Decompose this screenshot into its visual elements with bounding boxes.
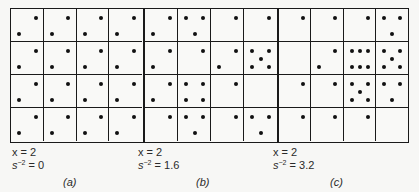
grid-cell bbox=[178, 108, 211, 141]
dot-icon bbox=[168, 82, 172, 86]
dot-icon bbox=[366, 16, 370, 20]
grid-cell bbox=[376, 75, 408, 108]
grid-cell bbox=[311, 108, 343, 141]
dot-icon bbox=[366, 115, 370, 119]
dot-icon bbox=[99, 49, 103, 53]
grid-cell bbox=[376, 42, 408, 75]
dot-icon bbox=[398, 49, 402, 53]
dot-icon bbox=[333, 115, 337, 119]
dot-icon bbox=[317, 65, 321, 69]
dot-icon bbox=[151, 32, 155, 36]
dot-icon bbox=[390, 57, 394, 61]
dot-icon bbox=[301, 82, 305, 86]
dot-icon bbox=[151, 65, 155, 69]
grid-cell bbox=[11, 42, 44, 75]
grid-cell bbox=[11, 108, 44, 141]
dot-icon bbox=[99, 82, 103, 86]
grid-cell bbox=[311, 75, 343, 108]
dot-icon bbox=[366, 49, 370, 53]
dot-icon bbox=[66, 82, 70, 86]
grid-cell bbox=[109, 75, 142, 108]
dot-icon bbox=[17, 98, 21, 102]
dot-icon bbox=[358, 90, 362, 94]
dot-icon bbox=[201, 115, 205, 119]
grid-cell bbox=[279, 75, 311, 108]
s-label-a: s−2 = 0 bbox=[12, 159, 44, 171]
dot-icon bbox=[50, 32, 54, 36]
dot-icon bbox=[66, 16, 70, 20]
dot-icon bbox=[267, 115, 271, 119]
dot-icon bbox=[132, 82, 136, 86]
dot-icon bbox=[66, 49, 70, 53]
dot-icon bbox=[99, 115, 103, 119]
dot-icon bbox=[201, 82, 205, 86]
panel-grid-a bbox=[10, 8, 144, 143]
grid-cell bbox=[109, 108, 142, 141]
dot-icon bbox=[366, 82, 370, 86]
dot-icon bbox=[333, 16, 337, 20]
dot-icon bbox=[193, 32, 197, 36]
dot-icon bbox=[382, 65, 386, 69]
dot-icon bbox=[259, 57, 263, 61]
grid-cell bbox=[77, 75, 110, 108]
panel-letter-a: (a) bbox=[63, 176, 76, 188]
grid-cell bbox=[279, 108, 311, 141]
dot-icon bbox=[201, 98, 205, 102]
grid-cell bbox=[244, 9, 277, 42]
dot-icon bbox=[398, 16, 402, 20]
grid-cell bbox=[344, 75, 376, 108]
dot-icon bbox=[201, 16, 205, 20]
dot-icon bbox=[234, 82, 238, 86]
grid-cell bbox=[344, 42, 376, 75]
dot-icon bbox=[132, 115, 136, 119]
dot-icon bbox=[34, 49, 38, 53]
dot-icon bbox=[132, 16, 136, 20]
dot-icon bbox=[83, 98, 87, 102]
dot-icon bbox=[398, 65, 402, 69]
dot-icon bbox=[234, 115, 238, 119]
s-label-b: s−2 = 1.6 bbox=[138, 159, 179, 171]
dot-icon bbox=[390, 98, 394, 102]
grid-cell bbox=[11, 9, 44, 42]
grid-cell bbox=[376, 108, 408, 141]
grid-cell bbox=[279, 9, 311, 42]
grid-cell bbox=[44, 42, 77, 75]
dot-icon bbox=[382, 82, 386, 86]
dot-icon bbox=[301, 115, 305, 119]
grid-cell bbox=[211, 9, 244, 42]
grid-cell bbox=[311, 42, 343, 75]
dot-icon bbox=[132, 49, 136, 53]
grid-cell bbox=[178, 9, 211, 42]
dot-icon bbox=[267, 49, 271, 53]
dot-icon bbox=[17, 131, 21, 135]
dot-icon bbox=[115, 65, 119, 69]
grid-cell bbox=[145, 42, 178, 75]
dot-icon bbox=[382, 16, 386, 20]
dot-icon bbox=[333, 82, 337, 86]
grid-cell bbox=[77, 42, 110, 75]
dot-icon bbox=[358, 49, 362, 53]
dot-icon bbox=[267, 65, 271, 69]
dot-icon bbox=[83, 32, 87, 36]
grid-cell bbox=[145, 9, 178, 42]
panel-grid-b bbox=[143, 8, 278, 143]
x-label-b: x = 2 bbox=[138, 146, 162, 158]
dice-dispersion-figure: x = 2s−2 = 0(a)x = 2s−2 = 1.6(b)x = 2s−2… bbox=[0, 0, 419, 192]
dot-icon bbox=[358, 65, 362, 69]
grid-cell bbox=[279, 42, 311, 75]
dot-icon bbox=[184, 98, 188, 102]
dot-icon bbox=[50, 131, 54, 135]
dot-icon bbox=[66, 115, 70, 119]
grid-cell bbox=[44, 9, 77, 42]
dot-icon bbox=[115, 131, 119, 135]
dot-icon bbox=[382, 49, 386, 53]
dot-icon bbox=[234, 16, 238, 20]
dot-icon bbox=[34, 82, 38, 86]
grid-cell bbox=[244, 75, 277, 108]
dot-icon bbox=[234, 49, 238, 53]
grid-cell bbox=[211, 75, 244, 108]
dot-icon bbox=[350, 82, 354, 86]
grid-cell bbox=[211, 108, 244, 141]
dot-icon bbox=[398, 82, 402, 86]
grid-cell bbox=[178, 75, 211, 108]
